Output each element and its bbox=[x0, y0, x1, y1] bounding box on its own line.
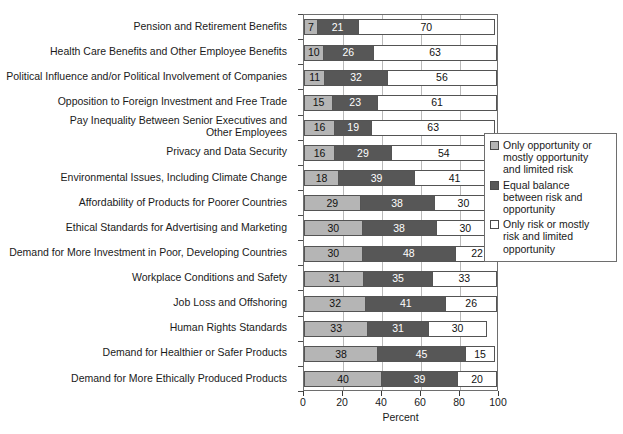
bar-value-label: 26 bbox=[343, 46, 355, 58]
bar-segment[interactable]: 41 bbox=[414, 170, 495, 186]
bar-segment[interactable]: 21 bbox=[317, 19, 359, 35]
bar-segment[interactable]: 61 bbox=[377, 95, 497, 111]
x-axis-tick-label: 100 bbox=[489, 396, 507, 408]
bar-segment[interactable]: 38 bbox=[304, 346, 378, 362]
bar-value-label: 54 bbox=[438, 147, 450, 159]
bar-segment[interactable]: 16 bbox=[304, 145, 335, 161]
stacked-bar[interactable]: 293830 bbox=[304, 195, 493, 211]
bar-value-label: 63 bbox=[427, 121, 439, 133]
bar-value-label: 19 bbox=[347, 121, 359, 133]
bar-value-label: 41 bbox=[400, 297, 412, 309]
bar-row: 113256 bbox=[304, 65, 497, 90]
bar-segment[interactable]: 32 bbox=[324, 70, 387, 86]
x-axis-tick-label: 80 bbox=[453, 396, 465, 408]
bar-segment[interactable]: 30 bbox=[428, 321, 488, 337]
bar-segment[interactable]: 30 bbox=[304, 220, 363, 236]
bar-value-label: 23 bbox=[349, 96, 361, 108]
bar-segment[interactable]: 38 bbox=[362, 220, 437, 236]
stacked-bar[interactable]: 333130 bbox=[304, 321, 487, 337]
legend-item-balance: Equal balance between risk and opportuni… bbox=[490, 179, 611, 216]
bar-segment[interactable]: 40 bbox=[304, 371, 382, 387]
stacked-bar[interactable]: 152361 bbox=[304, 95, 497, 111]
x-axis-tick-label: 20 bbox=[336, 396, 348, 408]
bar-value-label: 48 bbox=[403, 247, 415, 259]
bar-value-label: 41 bbox=[449, 172, 461, 184]
bar-value-label: 11 bbox=[309, 71, 320, 83]
bar-segment[interactable]: 31 bbox=[367, 321, 428, 337]
bar-row: 293830 bbox=[304, 191, 497, 216]
bar-segment[interactable]: 10 bbox=[304, 45, 324, 61]
bar-segment[interactable]: 63 bbox=[373, 45, 497, 61]
bar-segment[interactable]: 45 bbox=[377, 346, 466, 362]
bar-value-label: 38 bbox=[335, 348, 347, 360]
bar-value-label: 39 bbox=[371, 172, 383, 184]
bar-segment[interactable]: 29 bbox=[304, 195, 361, 211]
bar-row: 313533 bbox=[304, 266, 497, 291]
stacked-bar[interactable]: 403920 bbox=[304, 371, 497, 387]
bar-segment[interactable]: 20 bbox=[457, 371, 497, 387]
bar-segment[interactable]: 15 bbox=[465, 346, 495, 362]
bar-value-label: 18 bbox=[316, 172, 328, 184]
bar-row: 324126 bbox=[304, 291, 497, 316]
bar-segment[interactable]: 33 bbox=[432, 271, 497, 287]
bar-segment[interactable]: 26 bbox=[323, 45, 375, 61]
bar-segment[interactable]: 7 bbox=[304, 19, 318, 35]
bar-segment[interactable]: 56 bbox=[387, 70, 497, 86]
bar-value-label: 63 bbox=[429, 46, 441, 58]
bar-value-label: 30 bbox=[327, 222, 339, 234]
stacked-bar[interactable]: 113256 bbox=[304, 70, 497, 86]
bar-segment[interactable]: 48 bbox=[362, 246, 457, 262]
bar-segment[interactable]: 33 bbox=[304, 321, 368, 337]
bar-segment[interactable]: 41 bbox=[365, 296, 446, 312]
bar-segment[interactable]: 15 bbox=[304, 95, 333, 111]
legend-item-risk: Only risk or mostly risk and limited opp… bbox=[490, 218, 611, 255]
category-label: Opposition to Foreign Investment and Fre… bbox=[0, 89, 294, 114]
legend: Only opportunity or mostly opportunity a… bbox=[484, 133, 617, 262]
bar-value-label: 29 bbox=[357, 147, 369, 159]
bar-segment[interactable]: 54 bbox=[391, 145, 497, 161]
stacked-bar[interactable]: 72170 bbox=[304, 19, 495, 35]
bar-value-label: 32 bbox=[350, 71, 362, 83]
bar-value-label: 33 bbox=[330, 322, 342, 334]
bar-segment[interactable]: 38 bbox=[360, 195, 435, 211]
stacked-bar[interactable]: 161963 bbox=[304, 120, 495, 136]
stacked-bar[interactable]: 304822 bbox=[304, 246, 499, 262]
stacked-bar[interactable]: 384515 bbox=[304, 346, 495, 362]
stacked-bar[interactable]: 162954 bbox=[304, 145, 497, 161]
bar-value-label: 16 bbox=[314, 121, 326, 133]
bar-segment[interactable]: 18 bbox=[304, 170, 339, 186]
bar-segment[interactable]: 16 bbox=[304, 120, 335, 136]
bar-segment[interactable]: 26 bbox=[445, 296, 497, 312]
bar-segment[interactable]: 35 bbox=[363, 271, 432, 287]
bar-segment[interactable]: 39 bbox=[338, 170, 415, 186]
bar-value-label: 33 bbox=[459, 272, 471, 284]
bar-value-label: 32 bbox=[329, 297, 341, 309]
bar-value-label: 38 bbox=[391, 197, 403, 209]
bar-row: 102663 bbox=[304, 40, 497, 65]
stacked-bar[interactable]: 183941 bbox=[304, 170, 495, 186]
bar-segment[interactable]: 32 bbox=[304, 296, 366, 312]
bar-segment[interactable]: 23 bbox=[332, 95, 378, 111]
stacked-bar[interactable]: 303830 bbox=[304, 220, 495, 236]
bar-segment[interactable]: 11 bbox=[304, 70, 325, 86]
legend-swatch-icon-opportunity bbox=[490, 141, 499, 150]
bar-value-label: 70 bbox=[420, 21, 432, 33]
category-label: Political Influence and/or Political Inv… bbox=[0, 64, 294, 89]
stacked-bar[interactable]: 313533 bbox=[304, 271, 497, 287]
bar-value-label: 7 bbox=[308, 21, 314, 33]
x-axis-tick-label: 0 bbox=[300, 396, 306, 408]
bar-segment[interactable]: 70 bbox=[358, 19, 496, 35]
category-label: Human Rights Standards bbox=[0, 316, 294, 341]
bar-value-label: 45 bbox=[416, 348, 428, 360]
bar-segment[interactable]: 39 bbox=[381, 371, 458, 387]
bar-segment[interactable]: 19 bbox=[334, 120, 372, 136]
bar-segment[interactable]: 31 bbox=[304, 271, 364, 287]
category-label: Ethical Standards for Advertising and Ma… bbox=[0, 215, 294, 240]
bar-segment[interactable]: 29 bbox=[334, 145, 392, 161]
bar-value-label: 15 bbox=[474, 348, 486, 360]
bar-segment[interactable]: 30 bbox=[304, 246, 363, 262]
legend-swatch-icon-risk bbox=[490, 220, 499, 229]
stacked-bar[interactable]: 102663 bbox=[304, 45, 497, 61]
bar-segment[interactable]: 63 bbox=[371, 120, 495, 136]
stacked-bar[interactable]: 324126 bbox=[304, 296, 497, 312]
